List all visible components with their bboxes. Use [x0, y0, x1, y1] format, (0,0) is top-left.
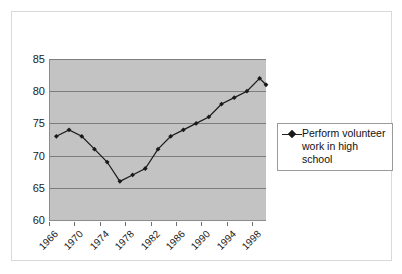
- x-axis-tick: [201, 222, 202, 226]
- diamond-marker-icon: [282, 128, 302, 141]
- y-axis-tick-label: 85: [33, 54, 45, 65]
- x-axis-tick: [74, 222, 75, 226]
- data-point-marker: [181, 127, 186, 132]
- x-axis-tick: [252, 222, 253, 226]
- plot-area: [49, 59, 266, 221]
- y-axis-tick-label: 70: [33, 150, 45, 161]
- data-point-marker: [232, 95, 237, 100]
- y-axis-tick-label: 80: [33, 86, 45, 97]
- scan-artifact: [0, 0, 402, 6]
- x-axis-tick: [49, 222, 50, 226]
- data-point-marker: [130, 173, 135, 178]
- y-axis-tick-label: 75: [33, 118, 45, 129]
- x-axis-tick: [151, 222, 152, 226]
- chart-frame: 606570758085 196619701974197819821986199…: [11, 11, 392, 261]
- chart-legend: Perform volunteer work in high school: [277, 123, 393, 171]
- x-axis-tick: [100, 222, 101, 226]
- x-axis-tick: [227, 222, 228, 226]
- data-point-marker: [67, 127, 72, 132]
- y-axis-tick-label: 65: [33, 182, 45, 193]
- legend-item-label: Perform volunteer work in high school: [302, 127, 388, 166]
- data-point-marker: [194, 121, 199, 126]
- x-axis: 196619701974197819821986199019941998: [49, 222, 265, 266]
- data-point-marker: [54, 134, 59, 139]
- series-line-perform-volunteer-work-in-high-school: [50, 59, 266, 220]
- y-axis-tick-label: 60: [33, 215, 45, 226]
- y-axis: 606570758085: [12, 59, 45, 220]
- x-axis-tick: [176, 222, 177, 226]
- x-axis-tick: [125, 222, 126, 226]
